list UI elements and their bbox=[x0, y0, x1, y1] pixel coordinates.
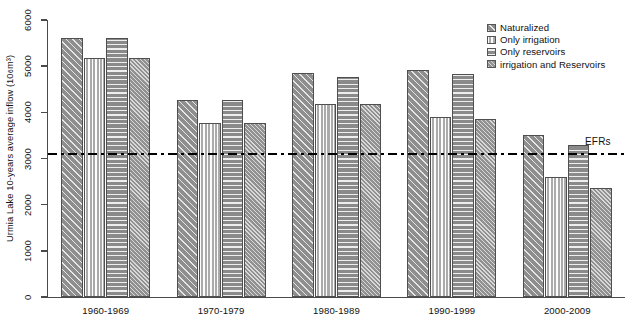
bar-naturalized-1990-1999 bbox=[407, 70, 429, 297]
bar-only-reservoirs-1980-1989 bbox=[337, 77, 359, 297]
bar-only-irrigation-1990-1999 bbox=[430, 117, 452, 298]
y-axis-tick-label: 3000 bbox=[22, 143, 33, 175]
legend-label: Only reservoirs bbox=[500, 46, 565, 57]
bar-naturalized-2000-2009 bbox=[523, 135, 545, 298]
legend-swatch-icon bbox=[487, 36, 496, 44]
x-axis-line bbox=[47, 297, 625, 298]
x-axis-label-2000-2009: 2000-2009 bbox=[544, 305, 591, 316]
x-axis-label-1970-1979: 1970-1979 bbox=[198, 305, 245, 316]
x-axis-label-1960-1969: 1960-1969 bbox=[82, 305, 129, 316]
legend-swatch-icon bbox=[487, 60, 496, 68]
bar-only-irrigation-1980-1989 bbox=[315, 104, 337, 297]
legend-swatch-icon bbox=[487, 48, 496, 56]
x-axis-label-1980-1989: 1980-1989 bbox=[313, 305, 360, 316]
legend-swatch-icon bbox=[487, 24, 496, 32]
y-axis-tick bbox=[41, 19, 47, 20]
y-axis-tick-label: 0 bbox=[22, 281, 33, 313]
x-axis-label-1990-1999: 1990-1999 bbox=[429, 305, 476, 316]
bar-irrigation-and-reservoirs-1960-1969 bbox=[129, 58, 151, 297]
y-axis-title: Urmia Lake 10-years average inflow (106m… bbox=[3, 0, 17, 297]
y-axis-tick bbox=[41, 158, 47, 159]
legend-item-irrigation-and-reservoirs: irrigation and Reservoirs bbox=[487, 58, 605, 70]
y-axis-tick-label: 5000 bbox=[22, 50, 33, 82]
efr-label: EFRs bbox=[585, 136, 611, 147]
bar-naturalized-1970-1979 bbox=[177, 100, 199, 297]
y-axis-tick bbox=[41, 296, 47, 297]
legend-item-naturalized: Naturalized bbox=[487, 22, 605, 34]
bar-naturalized-1980-1989 bbox=[292, 73, 314, 297]
bar-only-irrigation-1970-1979 bbox=[199, 123, 221, 297]
y-axis-tick bbox=[41, 204, 47, 205]
y-axis-title-text: Urmia Lake 10-years average inflow (10 bbox=[5, 73, 15, 242]
legend-label: Naturalized bbox=[500, 22, 549, 33]
y-axis-tick bbox=[41, 65, 47, 66]
legend-item-only-irrigation: Only irrigation bbox=[487, 34, 605, 46]
legend-label: irrigation and Reservoirs bbox=[500, 59, 605, 70]
y-axis-tick bbox=[41, 112, 47, 113]
bar-naturalized-1960-1969 bbox=[61, 38, 83, 297]
bar-only-reservoirs-2000-2009 bbox=[568, 145, 590, 297]
bar-only-irrigation-2000-2009 bbox=[545, 177, 567, 297]
bar-only-reservoirs-1960-1969 bbox=[106, 38, 128, 297]
efr-reference-line bbox=[48, 153, 625, 155]
y-axis-tick-label: 2000 bbox=[22, 189, 33, 221]
y-axis-tick-label: 4000 bbox=[22, 96, 33, 128]
y-axis-tick-label: 6000 bbox=[22, 4, 33, 36]
bar-irrigation-and-reservoirs-2000-2009 bbox=[590, 188, 612, 297]
bar-only-reservoirs-1990-1999 bbox=[452, 74, 474, 297]
bar-chart: Urmia Lake 10-years average inflow (106m… bbox=[0, 0, 635, 329]
bar-irrigation-and-reservoirs-1990-1999 bbox=[475, 119, 497, 297]
y-axis-title-tail: m³) bbox=[5, 55, 15, 69]
bar-only-reservoirs-1970-1979 bbox=[222, 100, 244, 297]
legend: NaturalizedOnly irrigationOnly reservoir… bbox=[487, 22, 605, 70]
legend-item-only-reservoirs: Only reservoirs bbox=[487, 46, 605, 58]
y-axis-tick bbox=[41, 250, 47, 251]
y-axis-title-exponent: 6 bbox=[7, 69, 14, 73]
bar-only-irrigation-1960-1969 bbox=[84, 58, 106, 297]
bar-irrigation-and-reservoirs-1980-1989 bbox=[360, 104, 382, 297]
legend-label: Only irrigation bbox=[500, 34, 560, 45]
bar-irrigation-and-reservoirs-1970-1979 bbox=[244, 123, 266, 297]
y-axis-tick-label: 1000 bbox=[22, 235, 33, 267]
